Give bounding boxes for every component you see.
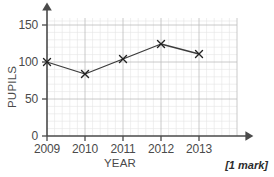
x-tick-label-2012: 2012 <box>141 143 181 155</box>
grid-major-horizontal <box>47 25 237 99</box>
x-tick-label-2010: 2010 <box>65 143 105 155</box>
grid-minor-horizontal <box>47 21 237 129</box>
y-tick-label-0: 0 <box>10 130 38 142</box>
y-axis-title: PUPILS <box>7 66 19 108</box>
x-tick-label-2011: 2011 <box>103 143 143 155</box>
y-tick-label-150: 150 <box>10 19 38 31</box>
line-chart-figure: 150 100 50 0 2009 2010 2011 2012 2013 PU… <box>0 0 274 177</box>
x-axis-title: YEAR <box>104 158 136 170</box>
mark-allocation-note: [1 mark] <box>225 160 268 171</box>
x-tick-label-2009: 2009 <box>27 143 67 155</box>
x-tick-label-2013: 2013 <box>179 143 219 155</box>
